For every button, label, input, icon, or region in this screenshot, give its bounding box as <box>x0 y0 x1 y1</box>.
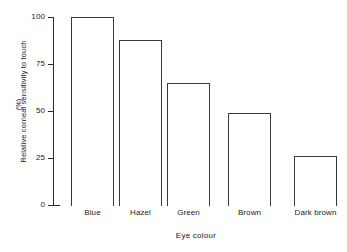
y-axis-tick-label-75: 75 <box>0 60 45 68</box>
bar-dark-brown <box>294 156 337 206</box>
bar-green <box>167 83 210 206</box>
y-axis-tick-label-100: 100 <box>0 13 45 21</box>
x-axis-category-label-brown: Brown <box>219 208 280 218</box>
y-axis-tick-50 <box>48 111 54 112</box>
x-axis-line <box>53 205 60 206</box>
y-axis-title-group: Relative corneal sensitivity to touch (%… <box>0 0 30 210</box>
bar-chart-figure: Relative corneal sensitivity to touch (%… <box>0 0 347 252</box>
x-axis-category-label-green: Green <box>158 208 219 218</box>
y-axis-tick-label-0: 0 <box>0 201 45 209</box>
bar-blue <box>71 17 114 206</box>
y-axis-tick-25 <box>48 158 54 159</box>
x-axis-category-label-dark-brown: Dark brown <box>280 208 347 218</box>
x-axis-title: Eye colour <box>53 231 339 240</box>
y-axis-tick-100 <box>48 17 54 18</box>
bar-hazel <box>119 40 162 206</box>
bar-brown <box>228 113 271 206</box>
y-axis-tick-label-50: 50 <box>0 107 45 115</box>
y-axis-units-label: (%) <box>14 5 23 205</box>
y-axis-tick-75 <box>48 64 54 65</box>
y-axis-tick-0 <box>48 205 54 206</box>
y-axis-tick-label-25: 25 <box>0 154 45 162</box>
